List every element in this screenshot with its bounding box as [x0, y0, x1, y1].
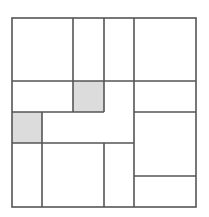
partition-diagram — [0, 0, 209, 217]
shaded-cell — [73, 81, 104, 112]
shaded-cell — [12, 112, 42, 143]
